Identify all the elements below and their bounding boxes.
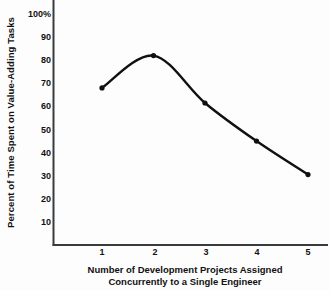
x-axis-title: Number of Development Projects Assigned …	[40, 264, 330, 287]
data-point-marker	[151, 53, 156, 58]
x-axis-tick-labels: 1 2 3 4 5	[0, 248, 330, 264]
data-point-marker	[305, 172, 310, 177]
data-point-marker	[254, 139, 259, 144]
x-tick-label: 1	[99, 248, 104, 257]
x-axis-title-line1: Number of Development Projects Assigned	[40, 264, 330, 276]
data-line-series	[102, 55, 308, 174]
data-point-markers	[99, 53, 310, 177]
data-point-marker	[202, 100, 207, 105]
data-point-marker	[99, 85, 104, 90]
chart-figure: Percent of Time Spent on Value-Adding Ta…	[0, 0, 330, 291]
x-tick-label: 4	[254, 248, 259, 257]
x-tick-label: 5	[305, 248, 310, 257]
x-tick-label: 2	[152, 248, 157, 257]
x-axis-title-line2: Concurrently to a Single Engineer	[40, 276, 330, 288]
x-tick-label: 3	[203, 248, 208, 257]
